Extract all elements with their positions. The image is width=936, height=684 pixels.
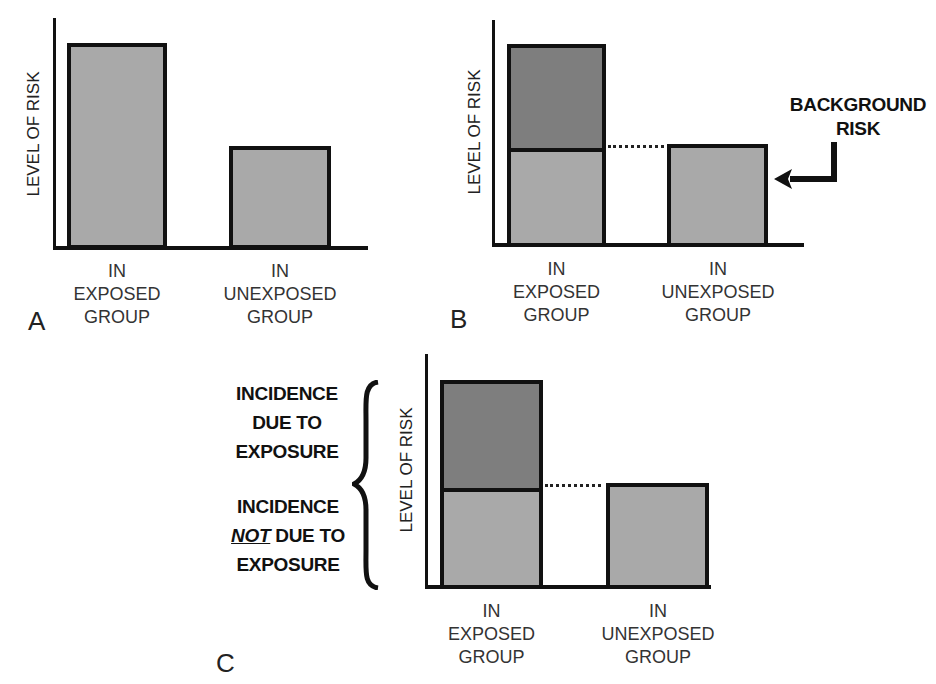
- y-axis: [53, 18, 56, 250]
- incidence-not-due-to-exposure-label: INCIDENCE NOT DUE TO EXPOSURE: [210, 495, 366, 577]
- background-level-line: [545, 484, 601, 487]
- excess-risk-segment: [511, 48, 602, 152]
- x-label-exposed: IN EXPOSED GROUP: [67, 260, 167, 329]
- y-axis-label: LEVEL OF RISK: [397, 405, 417, 535]
- y-axis-label: LEVEL OF RISK: [24, 69, 44, 199]
- bar-unexposed: [229, 146, 331, 249]
- x-label-exposed: IN EXPOSED GROUP: [440, 600, 543, 669]
- x-label-exposed: IN EXPOSED GROUP: [507, 258, 606, 327]
- arrow-icon: [770, 140, 840, 190]
- not-emphasis: NOT: [231, 525, 270, 546]
- x-label-unexposed: IN UNEXPOSED GROUP: [648, 258, 788, 327]
- brace-icon: [352, 380, 382, 590]
- background-risk-annotation: BACKGROUND RISK: [778, 93, 936, 141]
- panel-letter: C: [216, 648, 235, 679]
- bar-exposed: [507, 44, 606, 247]
- y-axis: [425, 354, 428, 589]
- bar-unexposed: [606, 483, 709, 589]
- excess-risk-segment: [444, 384, 539, 492]
- y-axis-label: LEVEL OF RISK: [465, 67, 485, 197]
- background-level-line: [608, 145, 664, 148]
- bar-exposed: [67, 43, 167, 249]
- panel-letter: B: [450, 304, 467, 335]
- panel-letter: A: [28, 306, 45, 337]
- x-label-unexposed: IN UNEXPOSED GROUP: [588, 600, 728, 669]
- bar-exposed: [440, 380, 543, 589]
- incidence-due-to-exposure-label: INCIDENCE DUE TO EXPOSURE: [212, 382, 362, 464]
- x-label-unexposed: IN UNEXPOSED GROUP: [210, 260, 350, 329]
- y-axis: [492, 20, 495, 246]
- bar-unexposed: [667, 144, 768, 247]
